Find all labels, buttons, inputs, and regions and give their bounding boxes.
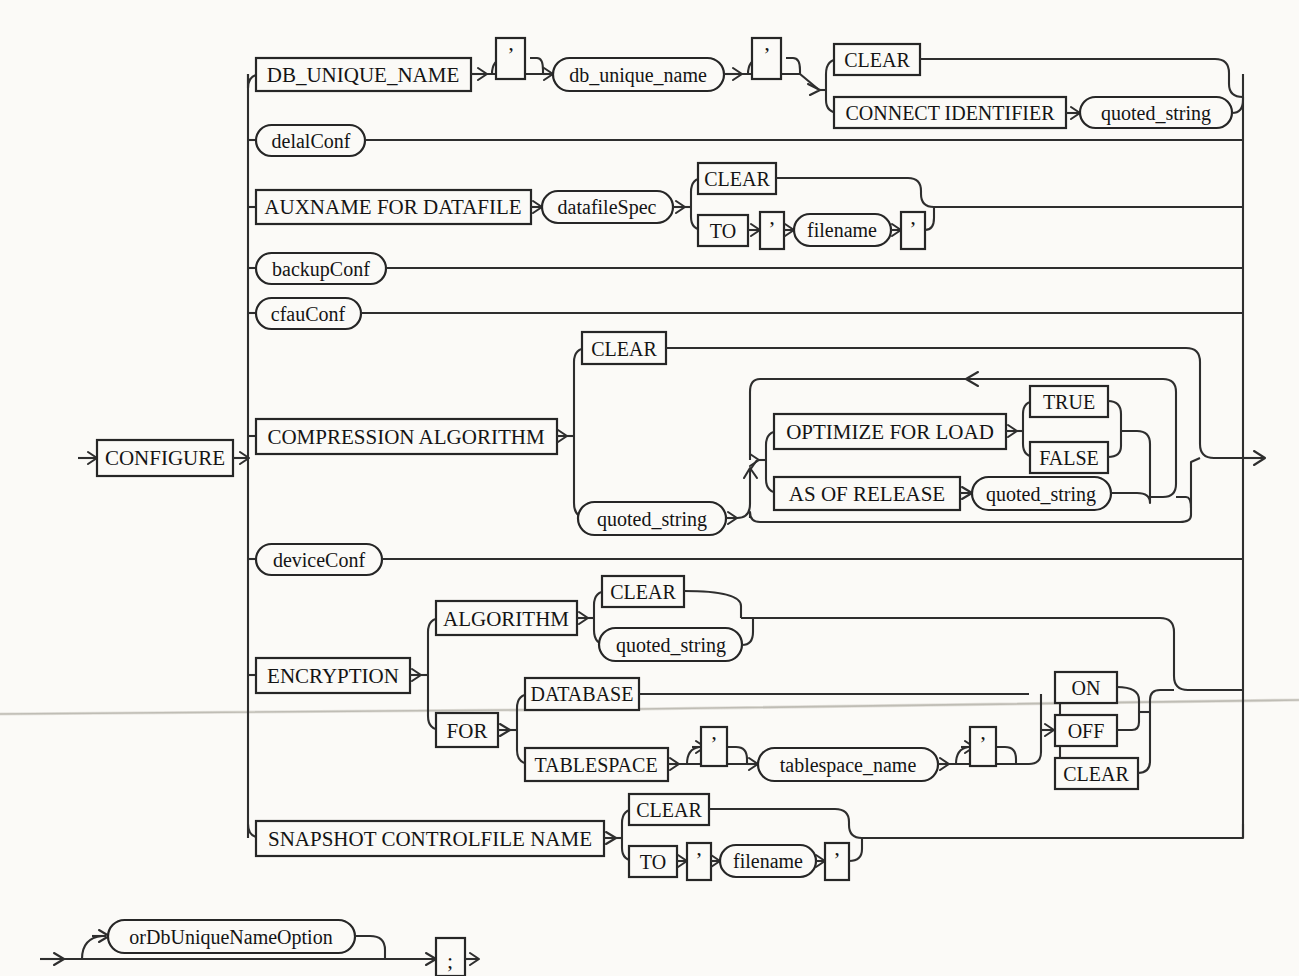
node-db-unique-name-keyword-label: DB_UNIQUE_NAME xyxy=(267,63,460,87)
node-false-label: FALSE xyxy=(1039,447,1099,469)
node-off[interactable]: OFF xyxy=(1055,715,1117,746)
node-compression-algorithm[interactable]: COMPRESSION ALGORITHM xyxy=(256,419,557,454)
quote-loop-ts-close: ’ xyxy=(949,727,1016,766)
node-tablespace[interactable]: TABLESPACE xyxy=(525,748,668,781)
node-auxname-for-datafile[interactable]: AUXNAME FOR DATAFILE xyxy=(256,190,531,224)
branch-device-conf: deviceConf xyxy=(248,544,1243,575)
node-algorithm-label: ALGORITHM xyxy=(443,607,569,631)
branch-db-unique-name: DB_UNIQUE_NAME ’ db_unique_name xyxy=(248,38,1243,128)
node-enc-algo-quoted-string-label: quoted_string xyxy=(616,634,726,657)
branch-delal-conf: delalConf xyxy=(248,125,1243,156)
node-configure-label: CONFIGURE xyxy=(105,446,225,470)
node-connect-identifier-label: CONNECT IDENTIFIER xyxy=(845,102,1055,124)
node-ts-quote-close[interactable]: ’ xyxy=(970,727,996,766)
node-backup-conf[interactable]: backupConf xyxy=(256,253,386,284)
node-snap-quote-close-label: ’ xyxy=(833,847,840,872)
node-as-of-release-label: AS OF RELEASE xyxy=(789,482,945,506)
node-comp-quoted-string[interactable]: quoted_string xyxy=(578,502,726,535)
node-on[interactable]: ON xyxy=(1055,672,1117,703)
node-aux-filename-label: filename xyxy=(807,219,877,241)
branch-cfau-conf: cfauConf xyxy=(248,298,1243,329)
railroad-diagram: CONFIGURE DB_UNIQUE_NAME xyxy=(0,0,1299,976)
node-aux-quote-close[interactable]: ’ xyxy=(901,212,925,249)
entry-arrow xyxy=(78,452,97,464)
node-dbun-clear-label: CLEAR xyxy=(844,49,910,71)
quote-loop-1: ’ xyxy=(486,38,543,79)
node-ts-quote-open-label: ’ xyxy=(710,731,717,756)
node-for[interactable]: FOR xyxy=(436,713,498,747)
node-tablespace-label: TABLESPACE xyxy=(534,754,657,776)
node-snap-clear[interactable]: CLEAR xyxy=(629,794,709,825)
node-configure[interactable]: CONFIGURE xyxy=(97,440,233,476)
node-snapshot-controlfile-name[interactable]: SNAPSHOT CONTROLFILE NAME xyxy=(256,821,604,856)
node-on-label: ON xyxy=(1072,677,1101,699)
node-dbun-quoted-string-label: quoted_string xyxy=(1101,102,1211,125)
node-compression-algorithm-label: COMPRESSION ALGORITHM xyxy=(267,425,544,449)
node-as-of-release-quoted-string[interactable]: quoted_string xyxy=(972,477,1111,510)
node-dbun-quoted-string[interactable]: quoted_string xyxy=(1080,97,1232,128)
node-comp-clear[interactable]: CLEAR xyxy=(582,332,666,364)
node-semicolon[interactable]: ; xyxy=(436,938,465,976)
node-snap-to[interactable]: TO xyxy=(629,846,677,877)
node-aux-clear[interactable]: CLEAR xyxy=(698,163,776,194)
node-semicolon-label: ; xyxy=(447,948,453,973)
node-db-unique-name-keyword[interactable]: DB_UNIQUE_NAME xyxy=(256,58,471,91)
node-or-db-unique-name-option[interactable]: orDbUniqueNameOption xyxy=(108,920,355,953)
node-enc-clear[interactable]: CLEAR xyxy=(1055,758,1138,789)
node-algorithm[interactable]: ALGORITHM xyxy=(436,601,577,635)
node-ts-quote-open[interactable]: ’ xyxy=(701,727,727,766)
node-database-label: DATABASE xyxy=(531,683,634,705)
node-aux-to[interactable]: TO xyxy=(698,215,748,246)
quote-loop-ts-open: ’ xyxy=(679,727,747,766)
tail-option-down xyxy=(355,936,385,959)
node-aux-quote-open[interactable]: ’ xyxy=(760,212,784,249)
tail-entry-arrow xyxy=(40,953,64,965)
node-snap-quote-open[interactable]: ’ xyxy=(687,843,711,880)
node-encryption[interactable]: ENCRYPTION xyxy=(256,658,410,693)
branch-backup-conf: backupConf xyxy=(248,253,1243,284)
node-aux-to-label: TO xyxy=(710,220,736,242)
node-optimize-for-load-label: OPTIMIZE FOR LOAD xyxy=(786,420,994,444)
node-off-label: OFF xyxy=(1068,720,1105,742)
node-aux-filename[interactable]: filename xyxy=(794,214,891,246)
node-database[interactable]: DATABASE xyxy=(525,678,639,710)
node-connect-identifier[interactable]: CONNECT IDENTIFIER xyxy=(834,97,1066,128)
node-tablespace-name[interactable]: tablespace_name xyxy=(758,748,938,781)
dbun-clear-exit xyxy=(920,59,1243,97)
node-datafile-spec[interactable]: datafileSpec xyxy=(542,191,673,223)
node-cfau-conf[interactable]: cfauConf xyxy=(256,298,361,329)
tail-row: orDbUniqueNameOption ; xyxy=(40,920,479,976)
node-snap-quote-close[interactable]: ’ xyxy=(825,843,849,880)
node-false[interactable]: FALSE xyxy=(1030,442,1108,473)
syntax-diagram-page: CONFIGURE DB_UNIQUE_NAME xyxy=(0,0,1299,976)
node-dbun-clear[interactable]: CLEAR xyxy=(834,44,920,75)
node-snap-filename[interactable]: filename xyxy=(720,845,816,877)
node-device-conf[interactable]: deviceConf xyxy=(256,544,382,575)
node-db-unique-name-nonterminal[interactable]: db_unique_name xyxy=(553,58,724,91)
node-quote-1-label: ’ xyxy=(507,42,514,67)
quote-loop-2: ’ xyxy=(741,38,800,79)
node-true[interactable]: TRUE xyxy=(1030,386,1108,417)
node-for-label: FOR xyxy=(447,719,488,743)
node-enc-algo-clear-label: CLEAR xyxy=(610,581,676,603)
node-enc-algo-clear[interactable]: CLEAR xyxy=(602,576,684,607)
node-ts-quote-close-label: ’ xyxy=(979,731,986,756)
node-snap-clear-label: CLEAR xyxy=(636,799,702,821)
node-snapshot-controlfile-name-label: SNAPSHOT CONTROLFILE NAME xyxy=(268,827,592,851)
node-delal-conf-label: delalConf xyxy=(272,130,351,152)
node-enc-algo-quoted-string[interactable]: quoted_string xyxy=(599,628,742,661)
node-comp-quoted-string-label: quoted_string xyxy=(597,508,707,531)
node-quote-2[interactable]: ’ xyxy=(752,38,781,79)
branch-encryption: ENCRYPTION ALGORITHM CLEAR quoted_string xyxy=(248,576,1243,789)
node-as-of-release-quoted-string-label: quoted_string xyxy=(986,483,1096,506)
node-quote-2-label: ’ xyxy=(763,42,770,67)
node-optimize-for-load[interactable]: OPTIMIZE FOR LOAD xyxy=(774,414,1006,449)
node-comp-clear-label: CLEAR xyxy=(591,338,657,360)
node-cfau-conf-label: cfauConf xyxy=(271,303,346,325)
node-aux-quote-close-label: ’ xyxy=(909,216,916,241)
node-delal-conf[interactable]: delalConf xyxy=(256,125,365,156)
node-as-of-release[interactable]: AS OF RELEASE xyxy=(774,477,960,510)
node-quote-1[interactable]: ’ xyxy=(496,38,525,79)
node-aux-quote-open-label: ’ xyxy=(768,216,775,241)
node-snap-filename-label: filename xyxy=(733,850,803,872)
